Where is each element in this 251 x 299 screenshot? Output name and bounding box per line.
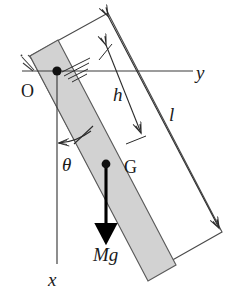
pivot-dot-icon (52, 66, 61, 75)
dimension-label-l: l (169, 105, 174, 124)
point-label-o: O (21, 82, 34, 100)
dimension-h (99, 44, 146, 144)
centroid-dot-icon (102, 160, 111, 169)
angle-label-theta: θ (62, 155, 71, 174)
diagram-canvas (0, 0, 251, 299)
dimension-label-h: h (113, 85, 123, 104)
axis-label-x: x (48, 270, 56, 289)
point-label-g: G (124, 158, 137, 176)
axis-label-y: y (196, 63, 204, 82)
force-label-mg: Mg (93, 245, 118, 264)
physics-diagram-figure: y x h l θ O G Mg (0, 0, 251, 299)
